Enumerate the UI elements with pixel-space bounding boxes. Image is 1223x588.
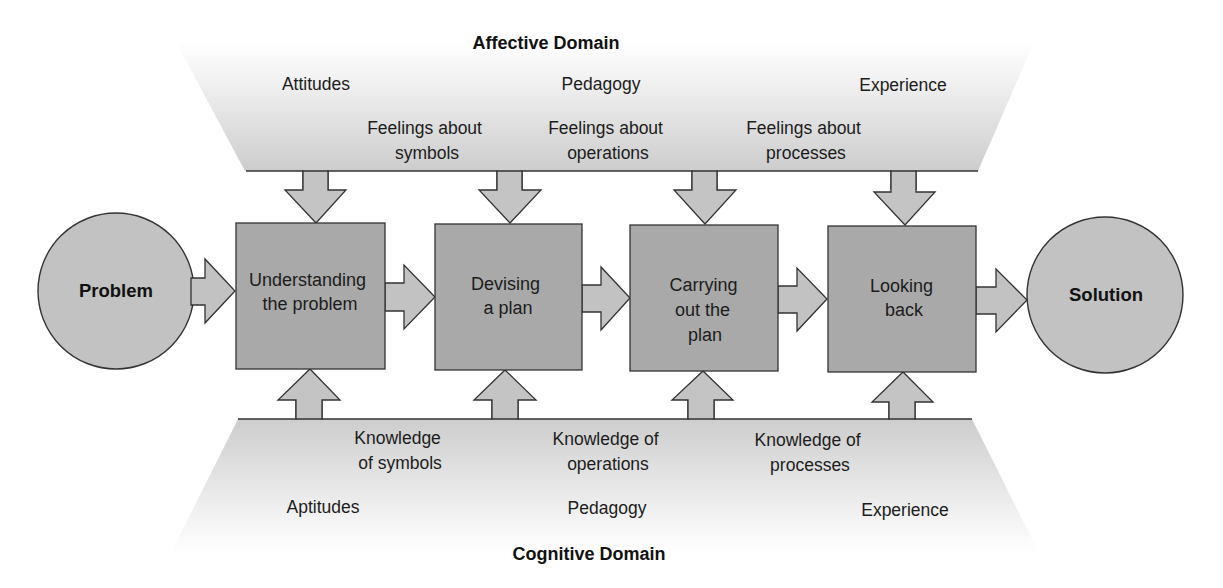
- step-box-2: [435, 224, 582, 370]
- problem-label: Problem: [79, 280, 153, 301]
- step-box-4: [828, 226, 976, 372]
- affective-arrow-4: [874, 171, 935, 225]
- flow-arrow-step3-to-step4: [778, 268, 827, 331]
- affective-arrow-3: [674, 171, 736, 224]
- cognitive-arrow-1: [278, 369, 340, 419]
- affective-influence-experience: Experience: [859, 75, 947, 95]
- affective-domain-band: [175, 40, 1035, 190]
- affective-arrows: [285, 171, 935, 225]
- feelings-operations-line-2: operations: [567, 143, 649, 163]
- step-looking-back: Looking back: [828, 226, 976, 372]
- feelings-processes-line-2: processes: [766, 143, 846, 163]
- step-3-line-2: out the: [675, 300, 730, 320]
- knowledge-operations-line-1: Knowledge of: [553, 429, 659, 449]
- problem-solving-diagram: Problem Solution Understanding the probl…: [0, 0, 1223, 588]
- flow-arrow-step4-to-solution: [976, 269, 1027, 332]
- step-4-line-2: back: [885, 300, 924, 320]
- flow-arrow-step2-to-step3: [582, 267, 630, 330]
- cognitive-domain-band: [170, 400, 1040, 555]
- feelings-processes-line-1: Feelings about: [746, 118, 861, 138]
- step-4-line-1: Looking: [870, 276, 933, 296]
- cognitive-arrow-4: [872, 372, 933, 419]
- feelings-symbols-line-2: symbols: [395, 143, 459, 163]
- problem-node: Problem: [38, 213, 194, 369]
- step-1-line-2: the problem: [262, 294, 357, 314]
- solution-label: Solution: [1069, 284, 1143, 305]
- step-1-line-1: Understanding: [249, 270, 366, 290]
- step-2-line-1: Devising: [471, 274, 540, 294]
- cognitive-influence-pedagogy: Pedagogy: [568, 498, 647, 518]
- affective-influence-pedagogy: Pedagogy: [562, 74, 641, 94]
- step-3-line-3: plan: [688, 325, 722, 345]
- step-understanding: Understanding the problem: [236, 223, 385, 369]
- step-3-line-1: Carrying: [669, 275, 737, 295]
- knowledge-processes-line-2: processes: [770, 455, 850, 475]
- flow-arrow-problem-to-step1: [191, 259, 235, 323]
- cognitive-influence-experience: Experience: [861, 500, 949, 520]
- feelings-operations-line-1: Feelings about: [548, 118, 663, 138]
- knowledge-symbols-line-1: Knowledge: [354, 428, 441, 448]
- affective-influence-attitudes: Attitudes: [282, 74, 350, 94]
- affective-band-edge: [246, 171, 978, 190]
- cognitive-arrows: [278, 369, 933, 419]
- solution-node: Solution: [1027, 217, 1183, 373]
- cognitive-influence-aptitudes: Aptitudes: [287, 497, 360, 517]
- step-box-3: [630, 225, 778, 371]
- knowledge-processes-line-1: Knowledge of: [755, 430, 861, 450]
- step-2-line-2: a plan: [483, 298, 532, 318]
- cognitive-band-edge: [238, 400, 972, 419]
- step-carrying-out: Carrying out the plan: [630, 225, 778, 371]
- affective-arrow-2: [479, 171, 541, 223]
- cognitive-arrow-2: [474, 370, 536, 419]
- cognitive-domain-title: Cognitive Domain: [512, 544, 665, 564]
- feelings-symbols-line-1: Feelings about: [367, 118, 482, 138]
- step-devising: Devising a plan: [435, 224, 582, 370]
- cognitive-arrow-3: [672, 371, 733, 419]
- flow-arrow-step1-to-step2: [385, 265, 435, 329]
- affective-domain-title: Affective Domain: [472, 33, 619, 53]
- knowledge-symbols-line-2: of symbols: [358, 453, 442, 473]
- knowledge-operations-line-2: operations: [567, 454, 649, 474]
- affective-arrow-1: [285, 171, 346, 223]
